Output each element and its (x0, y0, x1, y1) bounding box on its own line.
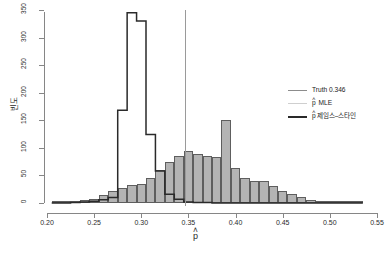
x-tick (47, 213, 48, 218)
y-tick-label: 350 (20, 0, 27, 21)
y-tick-label: 200 (20, 79, 27, 103)
x-tick-label: 0.20 (27, 219, 67, 226)
y-axis-title: 빈도 (8, 89, 19, 119)
x-tick-label: 0.50 (310, 219, 350, 226)
y-tick-label: 100 (20, 134, 27, 158)
x-tick (236, 213, 237, 218)
legend-item-truth: Truth 0.346 (288, 84, 356, 97)
legend-key-truth-line-icon (288, 90, 307, 91)
legend-item-mle: ˄p MLE (288, 97, 356, 110)
mle-hat-icon: ˄ (312, 96, 316, 102)
legend-label-mle: ˄p MLE (312, 100, 332, 107)
y-tick (39, 38, 44, 39)
y-axis-line (44, 12, 45, 203)
x-tick (188, 213, 189, 218)
x-axis-title: ˄p (0, 231, 391, 241)
x-tick-label: 0.55 (357, 219, 391, 226)
x-tick (330, 213, 331, 218)
legend-label-truth: Truth 0.346 (312, 87, 345, 94)
histogram-chart: 050100150200250300350 0.200.250.300.350.… (0, 0, 391, 256)
y-tick (39, 65, 44, 66)
x-axis-line (47, 213, 377, 214)
x-title-hat-icon: ˄ (193, 227, 198, 235)
y-tick (39, 148, 44, 149)
x-tick (377, 213, 378, 218)
x-tick-label: 0.35 (168, 219, 208, 226)
legend-item-james-stein: ˄p제임스–스타인 (288, 110, 356, 123)
x-tick-label: 0.45 (263, 219, 303, 226)
mle-text: MLE (319, 99, 333, 106)
y-tick-label: 250 (20, 52, 27, 76)
legend-key-james-stein-line-icon (288, 116, 307, 118)
js-text: 제임스–스타인 (317, 112, 357, 119)
js-hat-icon: ˄ (312, 109, 316, 115)
y-tick (39, 203, 44, 204)
x-tick (141, 213, 142, 218)
legend-key-mle-line-icon (288, 103, 307, 104)
y-tick-label: 0 (20, 190, 27, 214)
y-tick (39, 93, 44, 94)
y-tick (39, 10, 44, 11)
y-tick (39, 120, 44, 121)
truth-vline (185, 10, 186, 206)
x-tick-label: 0.40 (216, 219, 256, 226)
y-tick-label: 300 (20, 24, 27, 48)
y-tick (39, 175, 44, 176)
y-tick-label: 50 (20, 162, 27, 186)
x-tick-label: 0.25 (74, 219, 114, 226)
y-tick-label: 150 (20, 107, 27, 131)
x-tick (94, 213, 95, 218)
x-tick (283, 213, 284, 218)
chart-legend: Truth 0.346 ˄p MLE ˄p제임스–스타인 (288, 84, 356, 123)
legend-label-james-stein: ˄p제임스–스타인 (312, 113, 356, 120)
x-tick-label: 0.30 (121, 219, 161, 226)
